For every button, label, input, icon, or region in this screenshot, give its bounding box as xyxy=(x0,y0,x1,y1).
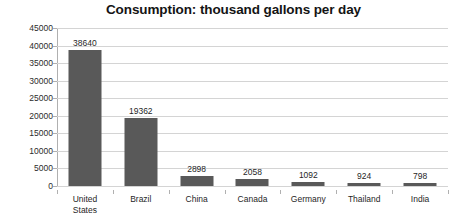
x-axis-tick-mark xyxy=(392,190,393,194)
bar-value-label: 924 xyxy=(357,171,371,181)
y-axis-tick-label: 0 xyxy=(1,181,53,191)
x-axis-tick-label: Brazil xyxy=(113,194,169,205)
x-axis-tick-mark xyxy=(113,190,114,194)
bar-value-label: 2058 xyxy=(243,167,262,177)
x-axis-tick-label: Thailand xyxy=(336,194,392,205)
y-axis-tick-label: 25000 xyxy=(1,93,53,103)
y-axis-tick-label: 40000 xyxy=(1,41,53,51)
y-axis: 4500040000350003000025000200001500010000… xyxy=(0,0,53,223)
bar-slot: 38640 xyxy=(57,28,113,186)
bar-value-label: 798 xyxy=(413,171,427,181)
chart-title: Consumption: thousand gallons per day xyxy=(0,2,467,17)
bar-slot: 2058 xyxy=(225,28,281,186)
y-axis-tick-label: 15000 xyxy=(1,128,53,138)
bar-value-label: 2898 xyxy=(187,164,206,174)
bar-chart: Consumption: thousand gallons per day 45… xyxy=(0,0,467,223)
x-axis-labels: UnitedStatesBrazilChinaCanadaGermanyThai… xyxy=(57,190,448,223)
bar-value-label: 19362 xyxy=(129,106,153,116)
bar[interactable] xyxy=(68,50,101,186)
bar-slot: 1092 xyxy=(280,28,336,186)
x-axis-tick-mark xyxy=(169,190,170,194)
x-axis-tick-mark xyxy=(225,190,226,194)
x-axis-tick-mark xyxy=(280,190,281,194)
bar[interactable] xyxy=(236,179,269,186)
x-axis-tick-mark xyxy=(57,190,58,194)
bar-value-label: 38640 xyxy=(73,38,97,48)
x-axis-tick-label: India xyxy=(392,194,448,205)
bar[interactable] xyxy=(348,183,381,186)
x-axis-tick-label: China xyxy=(169,194,225,205)
y-axis-tick-label: 20000 xyxy=(1,111,53,121)
bar-slot: 2898 xyxy=(169,28,225,186)
bar[interactable] xyxy=(292,182,325,186)
x-axis-tick-label: Germany xyxy=(280,194,336,205)
bar[interactable] xyxy=(404,183,437,186)
gridline xyxy=(57,186,448,187)
y-axis-tick-label: 35000 xyxy=(1,58,53,68)
bar-value-label: 1092 xyxy=(299,170,318,180)
y-axis-tick-label: 30000 xyxy=(1,76,53,86)
y-axis-tick-label: 10000 xyxy=(1,146,53,156)
bar[interactable] xyxy=(180,176,213,186)
bar-slot: 19362 xyxy=(113,28,169,186)
bar[interactable] xyxy=(124,118,157,186)
x-axis-tick-label: Canada xyxy=(225,194,281,205)
x-axis-tick-label: UnitedStates xyxy=(57,194,113,215)
x-axis-tick-mark xyxy=(336,190,337,194)
bar-slot: 924 xyxy=(336,28,392,186)
plot-area: 3864019362289820581092924798 xyxy=(57,28,448,186)
y-axis-tick-label: 5000 xyxy=(1,163,53,173)
bar-slot: 798 xyxy=(392,28,448,186)
x-axis-tick-mark xyxy=(448,190,449,194)
y-axis-tick-label: 45000 xyxy=(1,23,53,33)
